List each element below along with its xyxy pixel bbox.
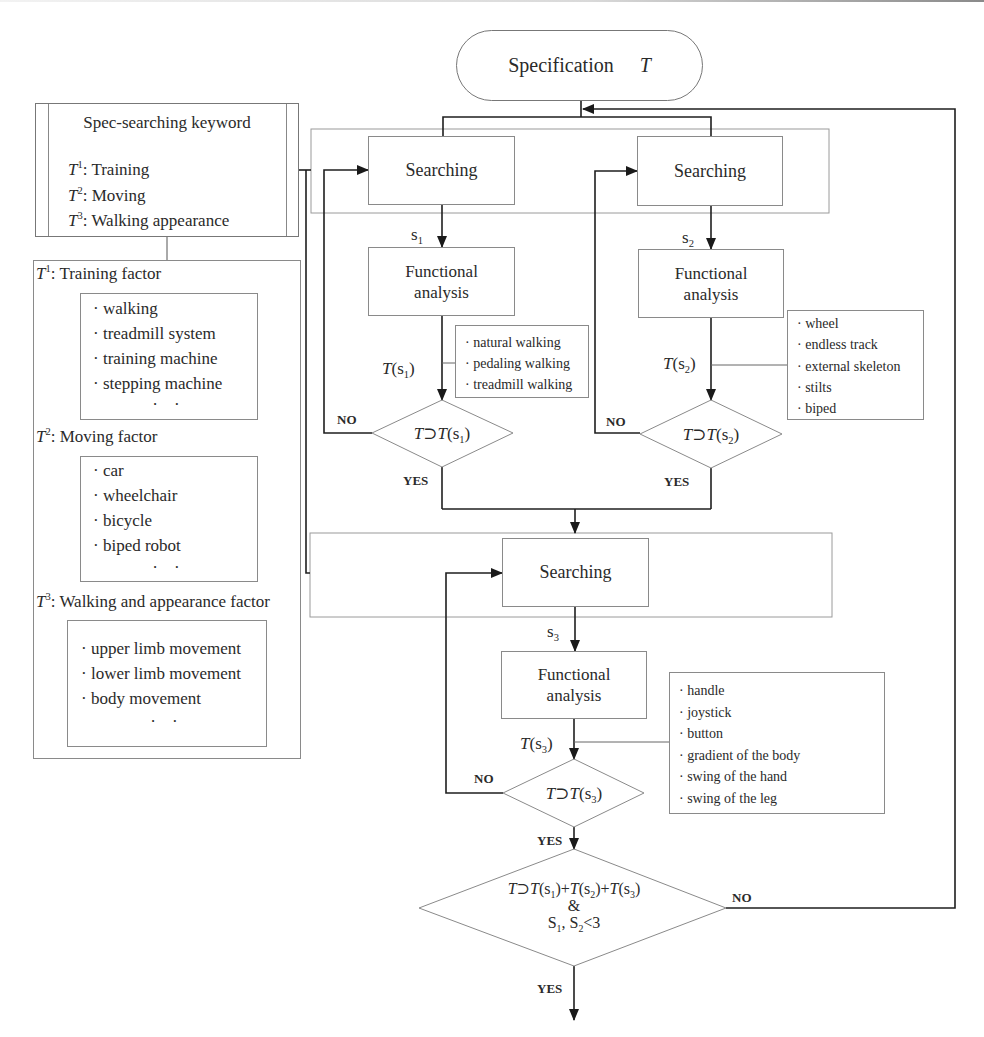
searching-box-3: Searching [502, 538, 649, 607]
factor-heading-moving: T2: Moving factor [36, 427, 157, 447]
functional-analysis-box-2: Functional analysis [638, 249, 784, 318]
decision-label-1: T⊃T(s1) [392, 423, 492, 444]
result-label-s3: s3 [547, 622, 559, 642]
list-item: · stilts [797, 377, 923, 398]
keyword-item: T1: Training [68, 157, 229, 183]
list-item: · wheel [797, 313, 923, 334]
list-item: · body movement [81, 686, 266, 711]
output-list-2: · wheel · endless track · external skele… [787, 310, 924, 420]
factor-heading-training: T1: Training factor [36, 264, 161, 284]
list-item: · button [679, 723, 884, 745]
searching-box-2: Searching [637, 136, 783, 206]
no-label-1: NO [337, 412, 357, 428]
list-item: · lower limb movement [81, 661, 266, 686]
list-ellipsis: · · [68, 709, 266, 734]
decision-label-2: T⊃T(s2) [661, 424, 761, 445]
searching-label: Searching [540, 562, 612, 583]
list-item: · training machine [93, 346, 257, 371]
specification-terminator: Specification T [456, 30, 703, 101]
list-item: · car [93, 458, 257, 483]
yes-label-final: YES [537, 981, 562, 997]
analysis-label-line2: analysis [414, 282, 469, 303]
keyword-item: T2: Moving [68, 183, 229, 209]
analysis-label-line2: analysis [684, 284, 739, 305]
analysis-label-line1: Functional [538, 664, 611, 685]
list-item: · natural walking [465, 332, 588, 353]
output-list-3: · handle · joystick · button · gradient … [669, 672, 885, 814]
list-item: · swing of the leg [679, 788, 884, 810]
list-item: · walking [93, 296, 257, 321]
output-label-Ts2: T(s2) [663, 354, 696, 374]
list-item: · endless track [797, 334, 923, 355]
analysis-label-line1: Functional [675, 263, 748, 284]
result-label-s1: s1 [411, 225, 423, 245]
specification-symbol: T [640, 54, 651, 77]
list-item: · external skeleton [797, 356, 923, 377]
final-decision-line2: & [460, 897, 688, 914]
list-ellipsis: · · [81, 555, 257, 580]
analysis-label-line1: Functional [405, 261, 478, 282]
list-item: · treadmill system [93, 321, 257, 346]
decision-label-3: T⊃T(s3) [524, 783, 624, 804]
no-label-3: NO [474, 771, 494, 787]
moving-factor-list: · car · wheelchair · bicycle · biped rob… [80, 456, 258, 582]
list-item: · handle [679, 680, 884, 702]
searching-label: Searching [406, 160, 478, 181]
analysis-label-line2: analysis [547, 685, 602, 706]
list-item: · bicycle [93, 508, 257, 533]
yes-label-1: YES [403, 473, 428, 489]
yes-label-2: YES [664, 474, 689, 490]
yes-label-3: YES [537, 833, 562, 849]
walking-appearance-factor-list: · upper limb movement · lower limb movem… [67, 620, 267, 747]
keyword-heading: Spec-searching keyword [36, 113, 298, 133]
result-label-s2: s2 [682, 228, 694, 248]
specification-label: Specification [508, 54, 614, 77]
list-item: · upper limb movement [81, 636, 266, 661]
factor-heading-walking-appearance: T3: Walking and appearance factor [36, 592, 270, 612]
training-factor-list: · walking · treadmill system · training … [80, 293, 258, 420]
list-item: · gradient of the body [679, 745, 884, 767]
output-list-1: · natural walking · pedaling walking · t… [455, 325, 589, 398]
no-label-final: NO [732, 890, 752, 906]
output-label-Ts1: T(s1) [382, 359, 415, 379]
list-item: · pedaling walking [465, 353, 588, 374]
final-decision-label: T⊃T(s1)+T(s2)+T(s3) & S1, S2<3 [460, 880, 688, 931]
searching-label: Searching [674, 161, 746, 182]
list-item: · swing of the hand [679, 766, 884, 788]
list-item: · biped [797, 398, 923, 419]
list-item: · treadmill walking [465, 374, 588, 395]
spec-searching-keyword-box: Spec-searching keyword T1: Training T2: … [35, 103, 299, 237]
list-item: · wheelchair [93, 483, 257, 508]
functional-analysis-box-1: Functional analysis [368, 247, 515, 316]
functional-analysis-box-3: Functional analysis [501, 651, 647, 719]
list-item: · joystick [679, 702, 884, 724]
no-label-2: NO [606, 414, 626, 430]
output-label-Ts3: T(s3) [520, 734, 553, 754]
final-decision-line3: S1, S2<3 [460, 914, 688, 931]
searching-box-1: Searching [368, 136, 515, 205]
final-decision-line1: T⊃T(s1)+T(s2)+T(s3) [460, 880, 688, 897]
keyword-list: T1: Training T2: Moving T3: Walking appe… [68, 157, 229, 234]
keyword-item: T3: Walking appearance [68, 208, 229, 234]
